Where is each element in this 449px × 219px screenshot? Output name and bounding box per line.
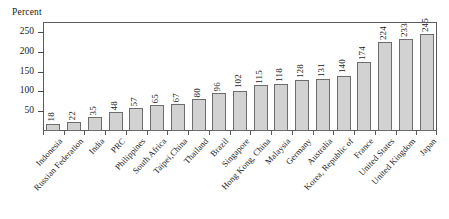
bar-value-label: 22 [67,111,81,120]
bar-group: 67 [171,22,185,131]
x-axis-tick-mark [126,131,127,135]
x-axis-tick-mark [147,131,148,135]
bar-value-label: 48 [109,101,123,110]
bar-group: 80 [192,22,206,131]
bar [192,99,206,131]
x-axis-tick-mark [64,131,65,135]
x-axis-tick-mark [230,131,231,135]
x-axis-category-label: Japan [417,136,438,158]
bar [274,84,288,131]
bar [337,76,351,131]
bar-group: 22 [67,22,81,131]
bar-value-label: 57 [129,97,143,106]
bar-group: 140 [337,22,351,131]
bar-value-label: 128 [295,64,309,78]
bar-group: 233 [399,22,413,131]
x-axis-tick-mark [84,131,85,135]
x-axis-tick-mark [209,131,210,135]
bar-value-label: 115 [254,70,268,84]
x-axis-tick-mark [396,131,397,135]
bar-value-label: 233 [399,23,413,37]
bar [295,80,309,131]
x-axis-category-label: India [86,136,106,156]
bar [357,62,371,131]
bar-chart: Percent 50100150200250 18223548576567809… [0,0,449,219]
bar-group: 174 [357,22,371,131]
bar-group: 18 [46,22,60,131]
bar [399,39,413,131]
x-axis-tick-mark [167,131,168,135]
bar-value-label: 174 [357,46,371,60]
bar-group: 65 [150,22,164,131]
bar [378,42,392,131]
x-axis-category-labels: IndonesiaRussian FederationIndiaPRCPhili… [43,136,437,219]
bar-group: 57 [129,22,143,131]
x-axis-tick-mark [250,131,251,135]
bar-group: 102 [233,22,247,131]
x-axis-tick-mark [188,131,189,135]
y-axis-tick-label: 250 [20,25,34,38]
bar-value-label: 67 [171,93,185,102]
y-axis-tick-label: 50 [25,104,35,117]
x-axis-tick-mark [354,131,355,135]
bar-value-label: 118 [274,68,288,82]
bar-value-label: 96 [212,82,226,91]
bar-group: 48 [109,22,123,131]
x-axis-tick-mark [333,131,334,135]
x-axis-tick-mark [436,131,437,135]
bar [109,112,123,131]
bar [129,108,143,131]
bar [171,104,185,131]
bar-value-label: 102 [233,74,247,88]
bar-value-label: 224 [378,26,392,40]
bar [254,85,268,131]
bar [420,34,434,131]
x-axis-tick-mark [271,131,272,135]
bar-group: 115 [254,22,268,131]
bar-value-label: 65 [150,94,164,103]
y-axis-tick-label: 200 [20,45,34,58]
x-axis-tick-mark [292,131,293,135]
bar-group: 128 [295,22,309,131]
bar [316,79,330,131]
bar-group: 131 [316,22,330,131]
x-axis-tick-mark [375,131,376,135]
bar [212,93,226,131]
bar-group: 35 [88,22,102,131]
bar-value-label: 245 [420,18,434,32]
bar [67,122,81,131]
y-axis-tick-label: 100 [20,84,34,97]
bars-layer: 1822354857656780961021151181281311401742… [43,22,437,131]
bar [150,105,164,131]
y-axis-tick-label: 150 [20,65,34,78]
bar-value-label: 131 [316,63,330,77]
x-axis-tick-mark [105,131,106,135]
bar [46,124,60,131]
y-axis-unit-caption: Percent [12,7,42,18]
bar-value-label: 140 [337,59,351,73]
bar-value-label: 35 [88,106,102,115]
x-axis-tick-mark [416,131,417,135]
bar-group: 118 [274,22,288,131]
bar-group: 245 [420,22,434,131]
bar [88,117,102,131]
bar [233,91,247,131]
bar-value-label: 80 [192,88,206,97]
bar-group: 224 [378,22,392,131]
x-axis-tick-mark [313,131,314,135]
bar-group: 96 [212,22,226,131]
x-axis-tick-mark [43,131,44,135]
bar-value-label: 18 [46,112,60,121]
